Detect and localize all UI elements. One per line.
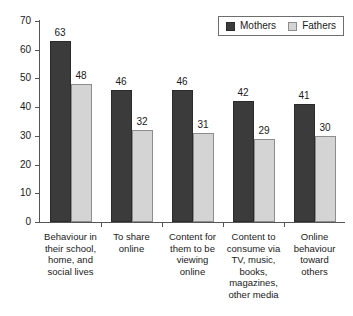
x-axis-label-line: others	[281, 266, 348, 278]
legend-item-fathers[interactable]: Fathers	[288, 21, 336, 31]
bar-mothers-3[interactable]	[233, 101, 254, 222]
x-axis-label-line: other media	[220, 289, 287, 301]
legend-item-mothers[interactable]: Mothers	[226, 21, 276, 31]
bar-value-label: 46	[168, 77, 197, 87]
x-axis-tick	[162, 222, 163, 227]
bar-value-label: 48	[67, 71, 96, 81]
bar-value-label: 32	[128, 117, 157, 127]
x-axis-label-0: Behaviour intheir school,home, andsocial…	[37, 231, 104, 277]
x-axis-label-line: To share	[98, 231, 165, 243]
x-axis-label-4: Onlinebehaviourtowardothers	[281, 231, 348, 277]
bar-chart: 010203040506070 63484632463142294130 Beh…	[0, 0, 353, 316]
y-axis-tick	[35, 136, 40, 137]
bar-value-label: 31	[189, 120, 218, 130]
y-axis-tick	[35, 222, 40, 223]
y-axis-tick	[35, 78, 40, 79]
y-axis-tick	[35, 50, 40, 51]
x-axis-label-line: magazines,	[220, 277, 287, 289]
bar-value-label: 46	[107, 77, 136, 87]
x-axis-label-2: Content forthem to beviewingonline	[159, 231, 226, 277]
x-axis-label-line: books,	[220, 266, 287, 278]
x-axis-label-line: Content for	[159, 231, 226, 243]
x-axis-label-line: home, and	[37, 254, 104, 266]
x-axis-label-line: Behaviour in	[37, 231, 104, 243]
x-axis-label-line: Online	[281, 231, 348, 243]
x-axis-label-line: toward	[281, 254, 348, 266]
y-axis-tick-label: 60	[0, 45, 31, 55]
x-axis-label-1: To shareonline	[98, 231, 165, 254]
bar-value-label: 63	[46, 28, 75, 38]
x-axis-label-line: online	[98, 243, 165, 255]
y-axis-tick	[35, 165, 40, 166]
x-axis-label-line: them to be	[159, 243, 226, 255]
bar-value-label: 41	[290, 91, 319, 101]
bar-fathers-4[interactable]	[315, 136, 336, 222]
y-axis-tick-label: 50	[0, 73, 31, 83]
y-axis-tick-label: 20	[0, 160, 31, 170]
y-axis-tick-label: 30	[0, 131, 31, 141]
x-axis-label-line: their school,	[37, 243, 104, 255]
chart-legend: Mothers Fathers	[218, 16, 344, 36]
mothers-swatch-icon	[226, 22, 235, 31]
x-axis-label-line: consume via	[220, 243, 287, 255]
bar-value-label: 29	[250, 126, 279, 136]
y-axis-tick	[35, 107, 40, 108]
fathers-swatch-icon	[288, 22, 297, 31]
x-axis-tick	[101, 222, 102, 227]
y-axis-tick-label: 40	[0, 102, 31, 112]
bar-mothers-0[interactable]	[50, 41, 71, 222]
x-axis-label-line: viewing	[159, 254, 226, 266]
bar-fathers-0[interactable]	[71, 84, 92, 222]
x-axis-tick	[223, 222, 224, 227]
x-axis-label-line: online	[159, 266, 226, 278]
x-axis-label-line: behaviour	[281, 243, 348, 255]
x-axis-line	[39, 222, 345, 223]
y-axis-tick	[35, 193, 40, 194]
bar-value-label: 30	[311, 123, 340, 133]
x-axis-label-line: TV, music,	[220, 254, 287, 266]
y-axis-tick	[35, 21, 40, 22]
bar-value-label: 42	[229, 88, 258, 98]
bar-fathers-3[interactable]	[254, 139, 275, 222]
bar-fathers-1[interactable]	[132, 130, 153, 222]
legend-label-mothers: Mothers	[240, 21, 276, 31]
bar-mothers-2[interactable]	[172, 90, 193, 222]
bar-fathers-2[interactable]	[193, 133, 214, 222]
y-axis-tick-label: 10	[0, 188, 31, 198]
bar-mothers-1[interactable]	[111, 90, 132, 222]
y-axis-tick-label: 70	[0, 16, 31, 26]
x-axis-label-3: Content toconsume viaTV, music,books,mag…	[220, 231, 287, 300]
x-axis-label-line: Content to	[220, 231, 287, 243]
x-axis-tick	[284, 222, 285, 227]
y-axis-tick-label: 0	[0, 217, 31, 227]
legend-label-fathers: Fathers	[302, 21, 336, 31]
x-axis-label-line: social lives	[37, 266, 104, 278]
